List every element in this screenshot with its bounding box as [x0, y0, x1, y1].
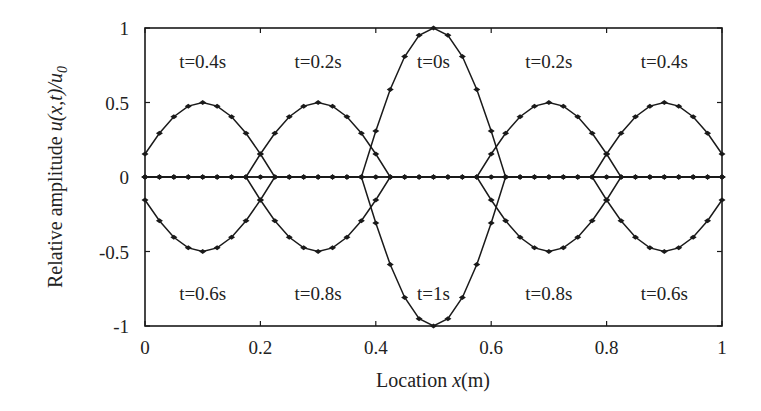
- diamond-marker: [661, 175, 668, 180]
- diamond-marker: [488, 198, 495, 203]
- diamond-marker: [444, 175, 451, 180]
- time-annotation: t=0.4s: [179, 51, 226, 72]
- diamond-marker: [459, 54, 466, 59]
- diamond-marker: [488, 175, 495, 180]
- time-annotation: t=0.4s: [641, 51, 688, 72]
- series-line: [145, 177, 722, 252]
- diamond-marker: [286, 175, 293, 180]
- diamond-marker: [488, 151, 495, 156]
- diamond-marker: [473, 262, 480, 267]
- series-line: [145, 103, 722, 178]
- diamond-marker: [545, 249, 552, 254]
- diamond-marker: [271, 175, 278, 180]
- series-t-0s: [142, 26, 726, 180]
- diamond-marker: [690, 175, 697, 180]
- diamond-marker: [315, 249, 322, 254]
- diamond-marker: [257, 175, 264, 180]
- diamond-marker: [257, 151, 264, 156]
- series-t-0-6s: [142, 175, 726, 255]
- diamond-marker: [416, 175, 423, 180]
- x-tick-label: 0.8: [595, 337, 619, 358]
- y-axis-label: Relative amplitude u(x,t)/u0: [44, 66, 70, 288]
- series-line: [145, 103, 722, 178]
- series-t-0-4s: [142, 100, 726, 180]
- x-axis-label: Location x(m): [376, 369, 490, 392]
- diamond-marker: [675, 175, 682, 180]
- diamond-marker: [401, 54, 408, 59]
- time-annotation: t=0.8s: [525, 283, 572, 304]
- diamond-marker: [545, 175, 552, 180]
- diamond-marker: [329, 175, 336, 180]
- diamond-marker: [401, 175, 408, 180]
- wave-propagation-chart: 00.20.40.60.8110.50-0.5-1 t=0.4st=0.2st=…: [0, 0, 761, 411]
- diamond-marker: [488, 221, 495, 226]
- diamond-marker: [646, 175, 653, 180]
- diamond-marker: [560, 175, 567, 180]
- x-tick-label: 0.2: [249, 337, 273, 358]
- diamond-marker: [632, 175, 639, 180]
- time-annotation: t=0.8s: [295, 283, 342, 304]
- diamond-marker: [401, 295, 408, 300]
- diamond-marker: [372, 198, 379, 203]
- y-tick-label: 1: [120, 18, 130, 39]
- diamond-marker: [589, 175, 596, 180]
- diamond-marker: [372, 175, 379, 180]
- y-tick-label: -1: [113, 316, 129, 337]
- diamond-marker: [300, 175, 307, 180]
- diamond-marker: [603, 151, 610, 156]
- time-annotation: t=0.2s: [295, 51, 342, 72]
- diamond-marker: [343, 175, 350, 180]
- diamond-marker: [372, 151, 379, 156]
- diamond-marker: [242, 175, 249, 180]
- time-annotation: t=0.2s: [525, 51, 572, 72]
- diamond-marker: [387, 262, 394, 267]
- series-t-0-8s: [142, 175, 726, 255]
- diamond-marker: [603, 198, 610, 203]
- diamond-marker: [603, 175, 610, 180]
- diamond-marker: [199, 249, 206, 254]
- diamond-marker: [661, 100, 668, 105]
- time-annotation: t=0.6s: [641, 283, 688, 304]
- diamond-marker: [545, 100, 552, 105]
- x-tick-label: 1: [717, 337, 727, 358]
- diamond-marker: [199, 175, 206, 180]
- diamond-marker: [185, 175, 192, 180]
- diamond-marker: [214, 175, 221, 180]
- diamond-marker: [531, 175, 538, 180]
- series-t-1s: [142, 175, 726, 329]
- diamond-marker: [459, 175, 466, 180]
- time-annotation: t=0s: [417, 51, 450, 72]
- diamond-marker: [517, 175, 524, 180]
- diamond-marker: [704, 175, 711, 180]
- diamond-marker: [170, 175, 177, 180]
- diamond-marker: [257, 198, 264, 203]
- diamond-marker: [387, 175, 394, 180]
- diamond-marker: [372, 221, 379, 226]
- diamond-marker: [430, 175, 437, 180]
- diamond-marker: [199, 100, 206, 105]
- diamond-marker: [473, 87, 480, 92]
- diamond-marker: [661, 249, 668, 254]
- y-tick-label: 0.5: [105, 93, 129, 114]
- diamond-marker: [228, 175, 235, 180]
- diamond-marker: [488, 128, 495, 133]
- x-tick-label: 0.6: [479, 337, 503, 358]
- diamond-marker: [618, 175, 625, 180]
- series-t-0-2s: [142, 100, 726, 180]
- series-line: [145, 177, 722, 252]
- diamond-marker: [574, 175, 581, 180]
- diamond-marker: [358, 175, 365, 180]
- x-tick-label: 0: [140, 337, 150, 358]
- y-tick-label: -0.5: [99, 242, 129, 263]
- diamond-marker: [315, 175, 322, 180]
- y-tick-label: 0: [120, 167, 130, 188]
- diamond-marker: [502, 175, 509, 180]
- diamond-marker: [473, 175, 480, 180]
- diamond-marker: [156, 175, 163, 180]
- diamond-marker: [372, 128, 379, 133]
- diamond-marker: [459, 295, 466, 300]
- time-annotation: t=0.6s: [179, 283, 226, 304]
- time-annotation: t=1s: [417, 283, 450, 304]
- x-tick-label: 0.4: [364, 337, 388, 358]
- diamond-marker: [387, 87, 394, 92]
